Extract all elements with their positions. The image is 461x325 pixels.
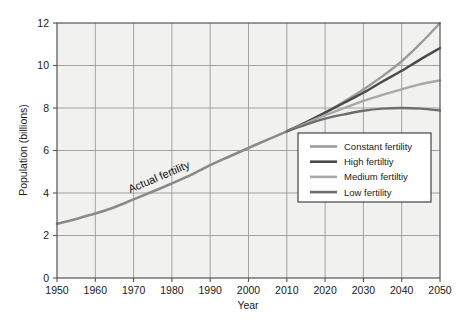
x-tick-label: 2040	[390, 284, 414, 296]
x-tick-label: 1950	[45, 284, 69, 296]
y-tick-label: 6	[43, 144, 49, 156]
y-axis-title: Population (billions)	[17, 104, 29, 196]
x-tick-label: 1990	[199, 284, 223, 296]
x-tick-label: 1980	[160, 284, 184, 296]
legend-label: Constant fertility	[344, 141, 412, 152]
y-tick-label: 12	[37, 17, 49, 29]
legend-label: Low fertility	[344, 187, 392, 198]
y-tick-label: 2	[43, 229, 49, 241]
y-tick-label: 0	[43, 272, 49, 284]
x-tick-label: 2030	[352, 284, 376, 296]
x-tick-label: 1970	[122, 284, 146, 296]
x-tick-label: 2010	[275, 284, 299, 296]
x-tick-label: 2050	[428, 284, 452, 296]
y-tick-label: 10	[37, 59, 49, 71]
y-tick-label: 8	[43, 102, 49, 114]
legend-label: High fertiltiy	[344, 156, 394, 167]
x-tick-label: 2000	[237, 284, 261, 296]
y-tick-label: 4	[43, 187, 49, 199]
chart-svg: 024681012 195019601970198019902000201020…	[0, 0, 461, 325]
x-axis-title: Year	[237, 299, 259, 311]
legend-label: Medium fertiltiy	[344, 171, 408, 182]
x-tick-label: 1960	[84, 284, 108, 296]
chart-legend: Constant fertilityHigh fertiltiyMedium f…	[298, 133, 431, 202]
population-projection-chart: 024681012 195019601970198019902000201020…	[0, 0, 461, 325]
x-tick-label: 2020	[313, 284, 337, 296]
